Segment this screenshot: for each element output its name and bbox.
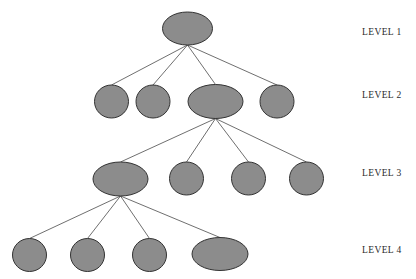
tree-node[interactable] — [170, 162, 204, 195]
tree-edge — [121, 196, 221, 238]
tree-node[interactable] — [188, 85, 243, 119]
tree-edge — [88, 196, 121, 239]
tree-edge — [216, 119, 249, 163]
tree-node[interactable] — [260, 85, 294, 118]
tree-node[interactable] — [232, 162, 266, 195]
tree-node[interactable] — [192, 238, 248, 271]
level-label: LEVEL 3 — [362, 168, 402, 178]
level-label: LEVEL 1 — [362, 27, 402, 37]
tree-node[interactable] — [93, 162, 148, 196]
tree-canvas — [0, 0, 416, 279]
hierarchy-tree-diagram: LEVEL 1LEVEL 2LEVEL 3LEVEL 4 — [0, 0, 416, 279]
node-layer — [13, 12, 324, 272]
level-label: LEVEL 4 — [362, 245, 402, 255]
tree-node[interactable] — [136, 85, 170, 118]
tree-node[interactable] — [13, 239, 47, 272]
edge-layer — [30, 45, 307, 239]
tree-node[interactable] — [133, 239, 167, 272]
tree-node[interactable] — [95, 85, 129, 118]
tree-edge — [30, 196, 121, 239]
level-label: LEVEL 2 — [362, 90, 402, 100]
tree-edge — [216, 119, 307, 163]
tree-node[interactable] — [71, 239, 105, 272]
tree-edge — [112, 45, 188, 85]
tree-node[interactable] — [163, 12, 213, 45]
tree-node[interactable] — [290, 162, 324, 195]
tree-edge — [153, 45, 188, 85]
tree-edge — [188, 45, 278, 85]
